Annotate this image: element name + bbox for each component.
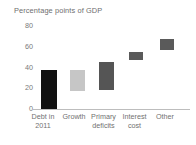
y-tick-label-20: 20 [3,84,33,92]
x-tick-line-2: cost [118,122,151,131]
x-tick-line-2: 2011 [26,122,60,131]
bar-interest-cost[interactable] [129,52,143,60]
plot-area [36,26,190,109]
x-tick-line-2: deficits [86,122,121,131]
y-tick-label-80: 80 [3,22,33,30]
y-tick-label-40: 40 [3,64,33,72]
x-tick-label-interest-cost: Interest cost [118,113,151,130]
chart-container: Percentage points of GDP 80 60 40 20 0 D… [0,0,196,145]
x-tick-label-debt-in-2011: Debt in 2011 [26,113,60,130]
x-tick-line-1: Other [149,113,181,122]
x-tick-label-other: Other [149,113,181,122]
y-tick-label-0: 0 [3,105,33,113]
y-tick-label-60: 60 [3,43,33,51]
bar-other[interactable] [160,39,174,50]
x-tick-label-primary-deficits: Primary deficits [86,113,121,130]
bar-primary-deficits[interactable] [99,62,114,90]
bar-debt-in-2011[interactable] [41,70,57,109]
bar-growth[interactable] [70,70,85,92]
